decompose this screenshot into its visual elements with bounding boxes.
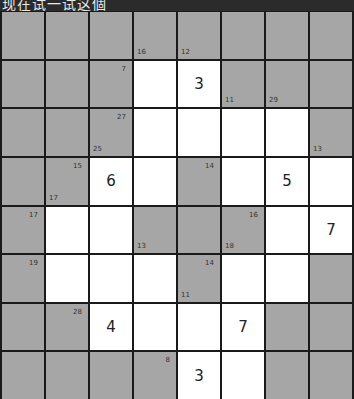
- entry-cell[interactable]: [46, 255, 88, 302]
- entry-cell[interactable]: [134, 109, 176, 156]
- clue-block-cell: [2, 158, 44, 205]
- clue-block-cell: [2, 61, 44, 108]
- clue-block-cell: [222, 12, 264, 59]
- clue-block-cell: [2, 352, 44, 399]
- cell-value: [266, 255, 308, 302]
- cell-value: [134, 255, 176, 302]
- entry-cell[interactable]: [46, 207, 88, 254]
- clue-block-cell: [90, 352, 132, 399]
- entry-cell[interactable]: [266, 109, 308, 156]
- clue-block-cell: [2, 109, 44, 156]
- entry-cell[interactable]: [178, 304, 220, 351]
- cell-value: [134, 61, 176, 108]
- clue-block-cell: 7: [90, 61, 132, 108]
- clue-block-cell: [266, 12, 308, 59]
- cell-value: [222, 158, 264, 205]
- entry-cell[interactable]: [134, 158, 176, 205]
- clue-block-cell: [46, 109, 88, 156]
- across-clue-sum: 19: [29, 260, 38, 267]
- entry-cell[interactable]: 5: [266, 158, 308, 205]
- cell-value: 5: [266, 158, 308, 205]
- entry-cell[interactable]: [90, 207, 132, 254]
- across-clue-sum: 16: [249, 212, 258, 219]
- clue-block-cell: [310, 352, 352, 399]
- entry-cell[interactable]: [178, 109, 220, 156]
- clue-block-cell: [46, 352, 88, 399]
- kakuro-grid: 1612731129272513151761451713161871914112…: [0, 11, 354, 399]
- entry-cell[interactable]: [222, 158, 264, 205]
- down-clue-sum: 13: [137, 243, 146, 250]
- cell-value: [310, 158, 352, 205]
- down-clue-sum: 29: [269, 97, 278, 104]
- cell-value: 7: [222, 304, 264, 351]
- entry-cell[interactable]: [134, 255, 176, 302]
- clue-block-cell: [90, 12, 132, 59]
- down-clue-sum: 11: [181, 292, 190, 299]
- down-clue-sum: 25: [93, 146, 102, 153]
- cell-value: [90, 207, 132, 254]
- cell-value: [222, 352, 264, 399]
- clue-block-cell: [266, 304, 308, 351]
- down-clue-sum: 13: [313, 146, 322, 153]
- cell-value: 6: [90, 158, 132, 205]
- clue-block-cell: [46, 12, 88, 59]
- cell-value: [134, 158, 176, 205]
- clue-block-cell: 12: [178, 12, 220, 59]
- clue-block-cell: [310, 61, 352, 108]
- down-clue-sum: 12: [181, 49, 190, 56]
- entry-cell[interactable]: [222, 255, 264, 302]
- clue-block-cell: 29: [266, 61, 308, 108]
- entry-cell[interactable]: 3: [178, 61, 220, 108]
- across-clue-sum: 27: [117, 114, 126, 121]
- clue-block-cell: 19: [2, 255, 44, 302]
- cell-value: [222, 255, 264, 302]
- clue-block-cell: [46, 61, 88, 108]
- cell-value: [178, 109, 220, 156]
- clue-block-cell: 13: [134, 207, 176, 254]
- cell-value: 3: [178, 352, 220, 399]
- across-clue-sum: 8: [166, 357, 170, 364]
- across-clue-sum: 7: [122, 66, 126, 73]
- down-clue-sum: 18: [225, 243, 234, 250]
- clue-block-cell: 1411: [178, 255, 220, 302]
- entry-cell[interactable]: 4: [90, 304, 132, 351]
- clue-block-cell: 13: [310, 109, 352, 156]
- entry-cell[interactable]: [222, 109, 264, 156]
- cell-value: [266, 109, 308, 156]
- entry-cell[interactable]: 7: [222, 304, 264, 351]
- cell-value: [134, 109, 176, 156]
- cell-value: [90, 255, 132, 302]
- clue-block-cell: 17: [2, 207, 44, 254]
- cell-value: 7: [310, 207, 352, 254]
- clue-block-cell: 8: [134, 352, 176, 399]
- entry-cell[interactable]: 6: [90, 158, 132, 205]
- entry-cell[interactable]: [134, 304, 176, 351]
- entry-cell[interactable]: [266, 255, 308, 302]
- entry-cell[interactable]: 7: [310, 207, 352, 254]
- entry-cell[interactable]: [310, 158, 352, 205]
- entry-cell[interactable]: 3: [178, 352, 220, 399]
- across-clue-sum: 17: [29, 212, 38, 219]
- down-clue-sum: 16: [137, 49, 146, 56]
- across-clue-sum: 14: [205, 163, 214, 170]
- clue-block-cell: [310, 12, 352, 59]
- across-clue-sum: 15: [73, 163, 82, 170]
- across-clue-sum: 14: [205, 260, 214, 267]
- entry-cell[interactable]: [134, 61, 176, 108]
- clue-block-cell: 1517: [46, 158, 88, 205]
- entry-cell[interactable]: [90, 255, 132, 302]
- cell-value: 3: [178, 61, 220, 108]
- clue-block-cell: [310, 304, 352, 351]
- cell-value: [46, 255, 88, 302]
- cell-value: [222, 109, 264, 156]
- clue-block-cell: [2, 12, 44, 59]
- entry-cell[interactable]: [222, 352, 264, 399]
- cell-value: [46, 207, 88, 254]
- down-clue-sum: 11: [225, 97, 234, 104]
- cell-value: [266, 207, 308, 254]
- clue-block-cell: [310, 255, 352, 302]
- cell-value: 4: [90, 304, 132, 351]
- clue-block-cell: 14: [178, 158, 220, 205]
- across-clue-sum: 28: [73, 309, 82, 316]
- entry-cell[interactable]: [266, 207, 308, 254]
